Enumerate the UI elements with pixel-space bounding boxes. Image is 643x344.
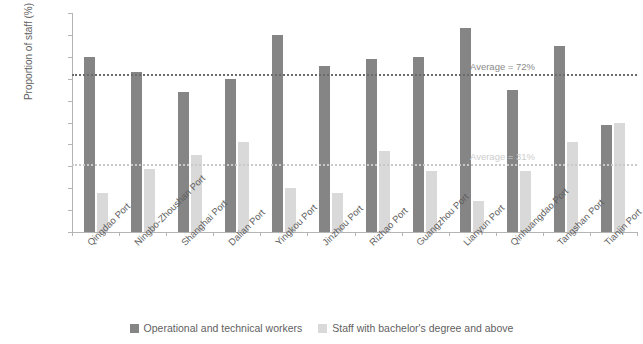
x-tick-mark <box>402 232 403 236</box>
y-axis-title: Proportion of staff (%) <box>23 0 34 142</box>
bar-chart: Proportion of staff (%) Average = 72%Ave… <box>0 0 643 344</box>
legend-item-operational: Operational and technical workers <box>130 322 303 334</box>
bar-operational <box>413 57 424 232</box>
legend-swatch-icon-operational <box>130 324 139 333</box>
bar-group <box>402 13 449 232</box>
legend-label-operational: Operational and technical workers <box>144 322 303 334</box>
bar-group <box>307 13 354 232</box>
x-tick-mark <box>307 232 308 236</box>
average-reference-line <box>72 74 637 76</box>
x-tick-mark <box>213 232 214 236</box>
bar-bachelor <box>614 123 625 233</box>
x-tick-mark <box>72 232 73 236</box>
x-tick-mark <box>496 232 497 236</box>
legend-label-bachelor: Staff with bachelor's degree and above <box>332 322 513 334</box>
bar-operational <box>84 57 95 232</box>
legend-item-bachelor: Staff with bachelor's degree and above <box>318 322 513 334</box>
legend-swatch-icon-bachelor <box>318 324 327 333</box>
x-tick-mark <box>637 232 638 236</box>
average-annotation-label: Average = 72% <box>470 61 535 72</box>
x-tick-mark <box>260 232 261 236</box>
average-annotation-label: Average = 31% <box>470 151 535 162</box>
x-tick-mark <box>590 232 591 236</box>
bar-operational <box>319 66 330 232</box>
bar-group <box>260 13 307 232</box>
bar-group <box>72 13 119 232</box>
bar-group <box>496 13 543 232</box>
bar-operational <box>272 35 283 232</box>
bar-operational <box>225 79 236 232</box>
legend: Operational and technical workers Staff … <box>0 322 643 334</box>
bar-operational <box>178 92 189 232</box>
x-tick-mark <box>166 232 167 236</box>
bar-operational <box>366 59 377 232</box>
bar-operational <box>601 125 612 232</box>
bar-group <box>355 13 402 232</box>
average-reference-line <box>72 164 637 166</box>
x-tick-mark <box>449 232 450 236</box>
bar-group <box>119 13 166 232</box>
x-tick-mark <box>543 232 544 236</box>
x-tick-mark <box>119 232 120 236</box>
x-tick-mark <box>355 232 356 236</box>
